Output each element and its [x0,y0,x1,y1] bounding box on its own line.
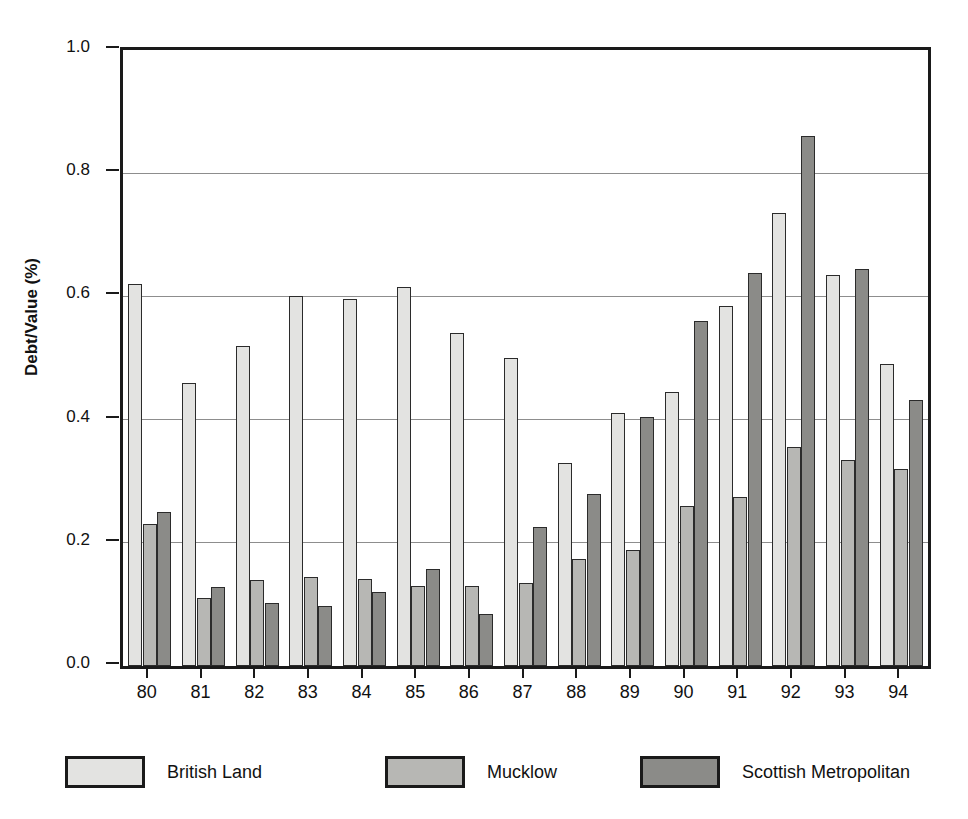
legend-swatch-scottish-metropolitan [640,756,720,788]
bar-83-series2 [318,606,332,666]
y-tick-label-1.0: 1.0 [30,38,90,55]
bar-90-series2 [694,321,708,666]
bar-91-series2 [748,273,762,666]
legend-label-2: Scottish Metropolitan [742,762,910,782]
x-tick-label-83: 83 [278,682,338,702]
x-tick-label-89: 89 [600,682,660,702]
bar-84-series2 [372,592,386,666]
x-tick-mark-92 [790,666,792,678]
bar-91-series1 [733,497,747,666]
chart-legend: British LandMucklowScottish Metropolitan [0,752,968,802]
bar-90-series0 [665,392,679,666]
bar-88-series1 [572,559,586,666]
chart-figure: Debt/Value (%) 0.00.20.40.60.81.0 808182… [0,0,968,819]
y-tick-mark-0.4 [106,416,119,418]
x-tick-mark-86 [468,666,470,678]
bar-87-series0 [504,358,518,666]
y-tick-mark-1.0 [106,46,119,48]
bar-88-series0 [558,463,572,666]
bar-94-series0 [880,364,894,666]
x-tick-mark-89 [629,666,631,678]
x-tick-mark-82 [253,666,255,678]
x-tick-mark-87 [522,666,524,678]
bar-81-series0 [182,383,196,666]
bar-80-series1 [143,524,157,666]
legend-swatch-british-land [65,756,145,788]
y-tick-label-0.4: 0.4 [30,408,90,425]
bar-86-series1 [465,586,479,666]
bar-80-series2 [157,512,171,666]
x-tick-mark-90 [683,666,685,678]
x-tick-mark-83 [307,666,309,678]
bar-82-series0 [236,346,250,666]
bar-93-series0 [826,275,840,666]
bar-92-series2 [801,136,815,666]
x-tick-label-88: 88 [546,682,606,702]
bar-84-series1 [358,579,372,666]
bar-85-series0 [397,287,411,666]
bar-80-series0 [128,284,142,666]
bar-83-series1 [304,577,318,666]
bar-83-series0 [289,296,303,666]
legend-item-0: British Land [65,752,262,792]
bar-90-series1 [680,506,694,666]
bar-81-series1 [197,598,211,666]
x-tick-label-81: 81 [171,682,231,702]
bar-94-series2 [909,400,923,666]
x-tick-label-82: 82 [224,682,284,702]
plot-inner [123,50,928,666]
y-tick-mark-0.6 [106,292,119,294]
bar-84-series0 [343,299,357,666]
x-tick-mark-94 [897,666,899,678]
bar-91-series0 [719,306,733,666]
bar-93-series1 [841,460,855,666]
x-tick-label-94: 94 [868,682,928,702]
legend-swatch-mucklow [385,756,465,788]
y-tick-label-0.6: 0.6 [30,284,90,301]
plot-area [120,47,931,669]
x-tick-label-92: 92 [761,682,821,702]
bar-94-series1 [894,469,908,666]
bar-92-series0 [772,213,786,666]
bar-85-series2 [426,569,440,666]
y-axis-title: Debt/Value (%) [22,227,42,407]
x-tick-label-91: 91 [707,682,767,702]
bar-89-series0 [611,413,625,666]
bar-81-series2 [211,587,225,666]
x-tick-mark-81 [200,666,202,678]
legend-label-1: Mucklow [487,762,557,782]
bar-82-series1 [250,580,264,666]
x-tick-label-90: 90 [654,682,714,702]
bar-82-series2 [265,603,279,666]
bar-89-series2 [640,417,654,666]
legend-label-0: British Land [167,762,262,782]
x-tick-label-93: 93 [815,682,875,702]
x-tick-mark-85 [414,666,416,678]
bar-86-series0 [450,333,464,666]
bar-86-series2 [479,614,493,666]
x-tick-label-84: 84 [332,682,392,702]
y-tick-label-0.2: 0.2 [30,531,90,548]
y-tick-mark-0.0 [106,662,119,664]
x-tick-label-85: 85 [385,682,445,702]
y-tick-label-0.8: 0.8 [30,161,90,178]
x-tick-mark-88 [575,666,577,678]
bar-88-series2 [587,494,601,666]
bar-93-series2 [855,269,869,666]
legend-item-1: Mucklow [385,752,557,792]
bar-85-series1 [411,586,425,666]
y-tick-mark-0.8 [106,169,119,171]
y-tick-mark-0.2 [106,539,119,541]
x-tick-label-86: 86 [439,682,499,702]
x-tick-mark-84 [361,666,363,678]
bar-87-series2 [533,527,547,666]
x-tick-mark-91 [736,666,738,678]
bar-89-series1 [626,550,640,666]
x-tick-mark-80 [146,666,148,678]
x-tick-label-80: 80 [117,682,177,702]
bar-92-series1 [787,447,801,666]
legend-item-2: Scottish Metropolitan [640,752,910,792]
x-tick-mark-93 [844,666,846,678]
x-tick-label-87: 87 [493,682,553,702]
y-tick-label-0.0: 0.0 [30,654,90,671]
